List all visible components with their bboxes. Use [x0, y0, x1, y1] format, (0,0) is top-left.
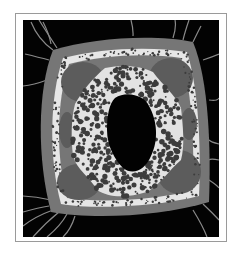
stem-cross-section-photo: [23, 20, 219, 237]
stem-cross-section-graphic: [23, 20, 219, 237]
cortex-lobe-right: [181, 108, 197, 140]
image-frame: [15, 13, 227, 242]
